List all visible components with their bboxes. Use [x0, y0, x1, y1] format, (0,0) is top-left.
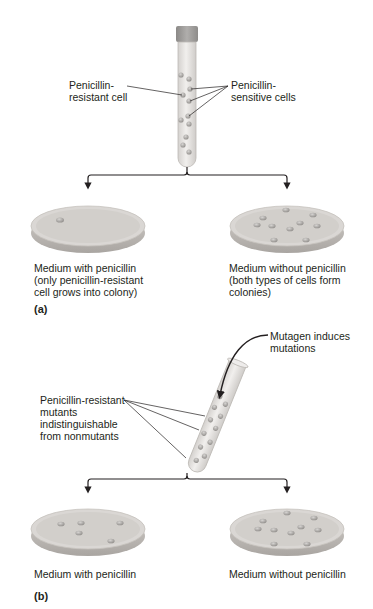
panel-a-left-caption: Medium with penicillin (only penicillin-…: [34, 262, 143, 298]
sensitive-cells-label: Penicillin- sensitive cells: [231, 79, 296, 103]
caption-line: (both types of cells form: [229, 274, 346, 286]
label-line: Penicillin-: [69, 79, 127, 91]
label-line: indistinguishable: [40, 418, 125, 430]
tube-body: [186, 360, 247, 475]
panel-a-dish-with-penicillin: [31, 206, 145, 253]
panel-a-dish-without-penicillin: [230, 206, 344, 253]
label-line: resistant cell: [69, 91, 127, 103]
panel-b-label: (b): [34, 590, 48, 602]
panel-b-branch-arrows: [88, 473, 287, 490]
caption-line: Medium without penicillin: [229, 568, 346, 580]
panel-b-right-caption: Medium without penicillin: [229, 568, 346, 580]
colony: [56, 217, 64, 222]
label-line: Penicillin-resistant: [40, 394, 125, 406]
label-line: mutants: [40, 406, 125, 418]
caption-line: cell grows into colony): [34, 286, 143, 298]
panel-a-test-tube: [176, 26, 198, 167]
panel-b-test-tube: [184, 356, 249, 475]
label-line: Mutagen induces: [270, 330, 350, 342]
panel-a-branch-arrows: [88, 167, 287, 186]
label-line: Penicillin-: [231, 79, 296, 91]
mutagen-label: Mutagen induces mutations: [270, 330, 350, 354]
label-line: from nonmutants: [40, 430, 125, 442]
panel-b-left-caption: Medium with penicillin: [34, 568, 136, 580]
caption-line: Medium without penicillin: [229, 262, 346, 274]
caption-line: colonies): [229, 286, 346, 298]
caption-line: (only penicillin-resistant: [34, 274, 143, 286]
mutants-label: Penicillin-resistant mutants indistingui…: [40, 394, 125, 442]
panel-a-right-caption: Medium without penicillin (both types of…: [229, 262, 346, 298]
resistant-cell-label: Penicillin- resistant cell: [69, 79, 127, 103]
panel-b-dish-without-penicillin: [230, 509, 344, 556]
panel-a-leader-lines: [127, 86, 228, 116]
label-line: mutations: [270, 342, 350, 354]
panel-b-dish-with-penicillin: [31, 509, 145, 556]
panel-a-label: (a): [34, 303, 47, 315]
caption-line: Medium with penicillin: [34, 262, 143, 274]
label-line: sensitive cells: [231, 91, 296, 103]
diagram-artwork: [0, 0, 373, 609]
caption-line: Medium with penicillin: [34, 568, 136, 580]
tube-body: [178, 42, 196, 167]
tube-cap: [176, 26, 198, 42]
